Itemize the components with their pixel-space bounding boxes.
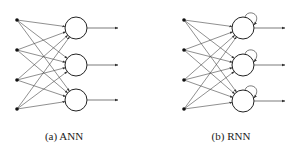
input-node	[182, 78, 186, 82]
connection-arrow	[17, 32, 66, 50]
neuron-node	[65, 54, 87, 76]
connection-arrow	[17, 20, 69, 91]
input-node	[15, 48, 19, 52]
connection-arrow	[184, 20, 237, 92]
input-node	[15, 78, 19, 82]
rnn-caption: (b) RNN	[212, 130, 251, 142]
rnn-network	[182, 13, 285, 112]
connection-arrow	[184, 80, 233, 97]
neuron-node	[232, 90, 254, 112]
neuron-node	[65, 89, 87, 111]
input-node	[182, 107, 186, 111]
connection-arrow	[184, 32, 233, 50]
neuron-node	[65, 17, 87, 39]
neuron-node	[232, 17, 254, 39]
connection-arrow	[17, 102, 65, 109]
input-node	[15, 18, 19, 22]
ann-caption: (a) ANN	[45, 130, 83, 142]
ann-network	[15, 17, 118, 111]
neuron-node	[232, 54, 254, 76]
input-node	[182, 18, 186, 22]
input-node	[15, 107, 19, 111]
connection-arrow	[17, 72, 67, 109]
input-node	[182, 48, 186, 52]
connection-arrow	[17, 80, 66, 96]
